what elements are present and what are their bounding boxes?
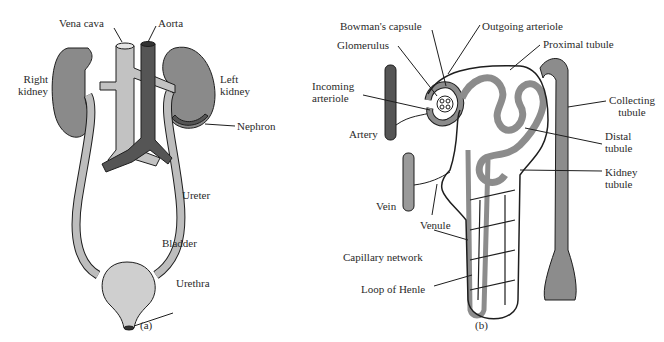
label-aorta: Aorta — [158, 17, 183, 29]
label-kidney-tubule: Kidney tubule — [605, 166, 637, 190]
label-ureter: Ureter — [182, 189, 210, 201]
label-vena-cava: Vena cava — [59, 17, 104, 29]
label-outgoing-arteriole: Outgoing arteriole — [482, 20, 563, 32]
label-right-kidney: Right kidney — [12, 73, 48, 97]
kidney-diagram: Vena cava Aorta Right kidney Left kidney… — [0, 0, 664, 342]
label-proximal-tubule: Proximal tubule — [543, 38, 614, 50]
glomerulus-shape — [437, 96, 453, 112]
vein-shape — [403, 153, 414, 211]
label-venule: Venule — [420, 219, 451, 231]
proximal-tubule-shape — [462, 78, 543, 183]
label-bladder: Bladder — [162, 237, 197, 249]
label-vein: Vein — [376, 200, 396, 212]
label-artery: Artery — [349, 128, 378, 140]
label-left-kidney: Left kidney — [220, 73, 250, 97]
label-nephron: Nephron — [237, 120, 276, 132]
label-loop-of-henle: Loop of Henle — [361, 283, 425, 295]
label-collecting-tubule: Collecting tubule — [603, 94, 661, 118]
label-distal-tubule: Distal tubule — [605, 130, 633, 154]
label-glomerulus: Glomerulus — [337, 39, 389, 51]
aorta-shape — [102, 44, 172, 172]
caption-b: (b) — [475, 319, 488, 331]
label-incoming-arteriole: Incoming arteriole — [312, 80, 354, 104]
diagram-artwork — [0, 0, 664, 342]
label-urethra: Urethra — [176, 277, 210, 289]
caption-a: (a) — [140, 319, 152, 331]
label-capillary-network: Capillary network — [343, 251, 423, 263]
label-bowmans-capsule: Bowman's capsule — [340, 20, 422, 32]
